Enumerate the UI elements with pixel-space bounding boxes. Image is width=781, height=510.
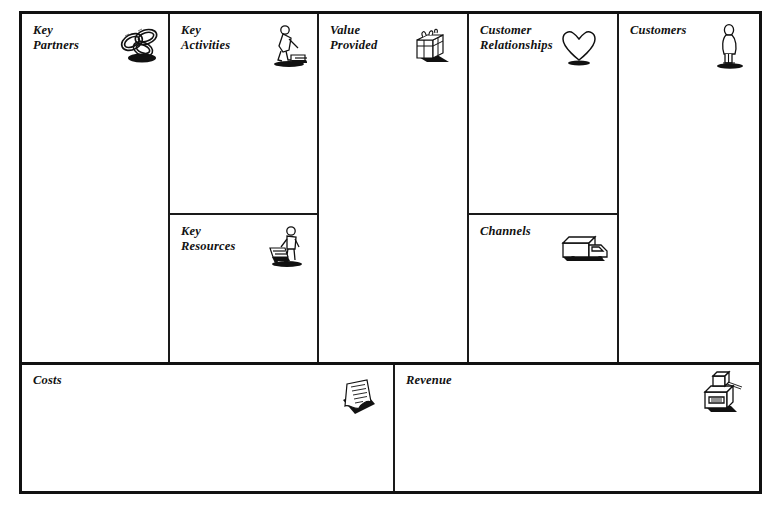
block-key-partners[interactable]: Key Partners <box>22 14 168 362</box>
invoice-document-icon <box>333 374 381 422</box>
block-value-provided-label: Value Provided <box>330 23 377 52</box>
canvas-frame: Key Partners <box>19 11 762 494</box>
block-channels-label: Channels <box>480 224 531 239</box>
block-channels[interactable]: Channels <box>469 215 617 362</box>
standing-person-icon <box>713 22 747 70</box>
block-key-activities-label: Key Activities <box>181 23 230 52</box>
divider-top-bottom-rows <box>22 362 759 365</box>
person-with-cart-icon <box>265 223 309 269</box>
block-key-partners-label: Key Partners <box>33 23 79 52</box>
divider-key-activities-right <box>317 14 319 364</box>
block-key-activities[interactable]: Key Activities <box>170 14 317 213</box>
business-model-canvas: Key Partners <box>0 0 781 510</box>
divider-key-activities-resources <box>168 213 317 215</box>
cash-register-icon <box>697 370 745 422</box>
block-customers-label: Customers <box>630 23 687 38</box>
block-costs-label: Costs <box>33 373 62 388</box>
divider-customer-relationships-channels <box>467 213 617 215</box>
divider-key-partners-right <box>168 14 170 364</box>
divider-costs-revenue <box>393 364 395 491</box>
block-costs[interactable]: Costs <box>22 364 393 491</box>
block-value-provided[interactable]: Value Provided <box>319 14 467 362</box>
block-revenue[interactable]: Revenue <box>395 364 759 491</box>
block-customer-relationships[interactable]: Customer Relationships <box>469 14 617 213</box>
interlocking-rings-icon <box>116 24 162 64</box>
block-revenue-label: Revenue <box>406 373 452 388</box>
block-customers[interactable]: Customers <box>619 14 759 362</box>
heart-icon <box>557 26 601 68</box>
block-key-resources-label: Key Resources <box>181 224 236 253</box>
block-customer-relationships-label: Customer Relationships <box>480 23 553 52</box>
delivery-truck-icon <box>559 229 611 271</box>
gift-box-icon <box>409 24 453 68</box>
divider-value-provided-right <box>467 14 469 364</box>
block-key-resources[interactable]: Key Resources <box>170 215 317 362</box>
person-sweeping-icon <box>265 22 307 68</box>
divider-customer-relationships-right <box>617 14 619 364</box>
